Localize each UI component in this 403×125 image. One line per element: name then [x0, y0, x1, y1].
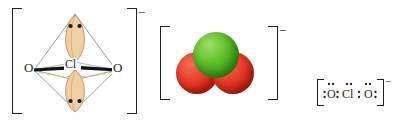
charge-superscript: − [385, 76, 391, 87]
atom-label-oxygen-right: O [112, 61, 123, 74]
lewis-formula: O Cl O [323, 80, 379, 104]
charge-superscript: − [279, 24, 286, 37]
dots-above-oxygen-right [365, 83, 371, 85]
lewis-atom-chlorine: Cl [342, 88, 353, 100]
dots-right-of-oxygen-right [374, 91, 376, 98]
atom-label-chlorine: Cl [64, 58, 77, 70]
bracket-right [268, 26, 278, 100]
lewis-atom-oxygen-right: O [364, 88, 373, 100]
sphere-chlorine [193, 32, 239, 78]
dots-left-of-oxygen-left [323, 91, 325, 98]
bracket-left [160, 26, 170, 100]
atom-label-oxygen-left: O [23, 61, 34, 74]
dots-between-oxygen-left-and-chlorine [336, 91, 338, 98]
dots-above-oxygen-left [328, 83, 334, 85]
dots-above-chlorine [346, 83, 352, 85]
dots-between-chlorine-and-oxygen-right [358, 91, 360, 98]
lewis-structure-panel: − [295, 0, 403, 125]
lewis-atom-oxygen-left: O [327, 88, 336, 100]
space-filling-model-panel: − [150, 0, 295, 125]
vsepr-diagram-panel: − [0, 0, 150, 125]
lone-pair-lobe-top [66, 15, 85, 62]
